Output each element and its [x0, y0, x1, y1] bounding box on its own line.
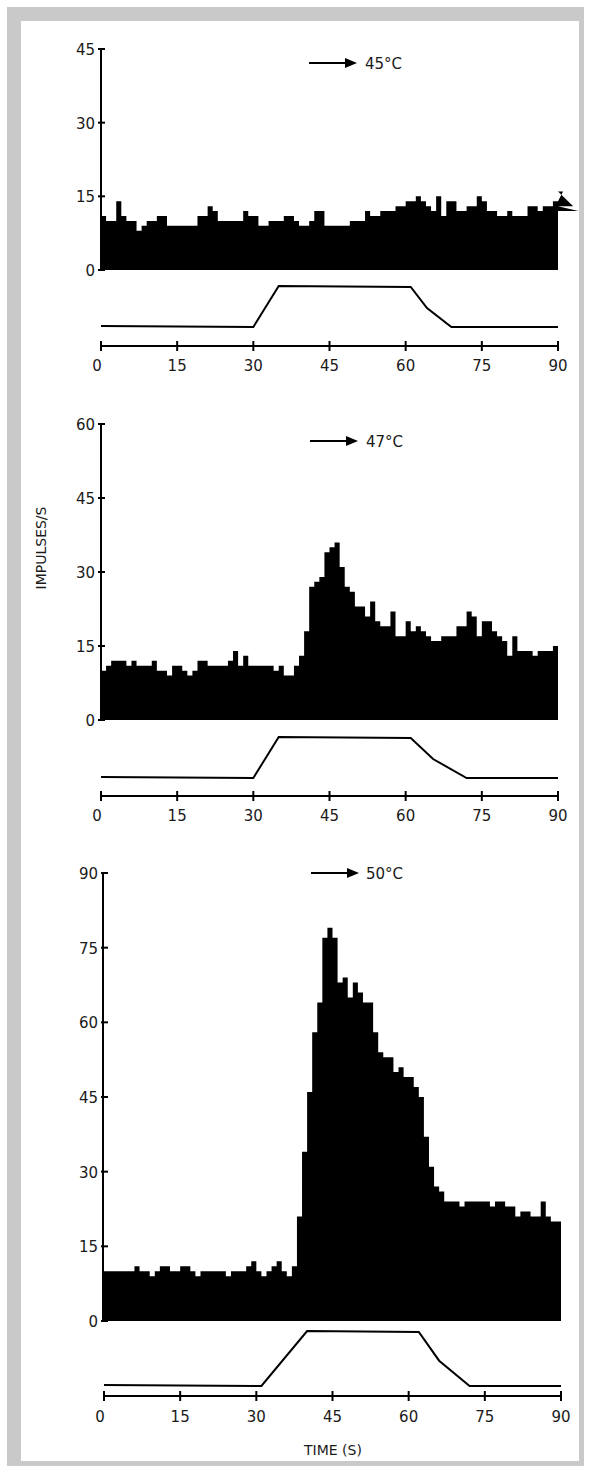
stimulus-label-50c: 50°C: [366, 865, 403, 883]
x-tick-label: 60: [396, 357, 415, 375]
panel-45c: 0153045 0153045607590 45°C: [76, 41, 578, 375]
y-tick-label: 75: [79, 940, 98, 958]
y-tick-label: 45: [79, 1089, 98, 1107]
x-tick-label: 0: [92, 357, 102, 375]
x-tick-label: 0: [92, 807, 102, 825]
stimulus-trace-45c: [101, 286, 558, 327]
histogram-bars-50c: [104, 928, 561, 1321]
panel-47c: 015304560 0153045607590 47°C IMPULSES/S: [33, 416, 568, 825]
x-tick-label: 30: [244, 807, 263, 825]
x-tick-label: 45: [320, 357, 339, 375]
x-tick-label: 60: [396, 807, 415, 825]
y-tick-label: 60: [79, 1014, 98, 1032]
histogram-bars-45c: [101, 191, 578, 270]
arrow-icon: [347, 868, 359, 878]
histogram-bars-47c: [101, 542, 558, 720]
y-tick-label: 0: [85, 262, 95, 280]
panel-50c: 0153045607590 0153045607590 50°C TIME (S…: [79, 865, 571, 1458]
y-tick-label: 15: [79, 1238, 98, 1256]
stimulus-label-47c: 47°C: [366, 433, 403, 451]
x-tick-label: 75: [475, 1408, 494, 1426]
x-axis-45c: 0153045607590: [92, 341, 567, 375]
y-tick-label: 30: [76, 115, 95, 133]
x-tick-label: 0: [95, 1408, 105, 1426]
x-tick-label: 90: [548, 807, 567, 825]
stimulus-trace-47c: [101, 737, 558, 778]
y-tick-label: 45: [76, 490, 95, 508]
x-tick-label: 90: [548, 357, 567, 375]
y-tick-label: 15: [76, 638, 95, 656]
y-tick-label: 90: [79, 865, 98, 883]
y-tick-label: 0: [85, 712, 95, 730]
x-tick-label: 75: [472, 357, 491, 375]
x-tick-label: 45: [320, 807, 339, 825]
x-tick-label: 15: [168, 357, 187, 375]
y-tick-label: 30: [79, 1164, 98, 1182]
y-axis-title: IMPULSES/S: [33, 506, 49, 589]
x-tick-label: 15: [171, 1408, 190, 1426]
x-tick-label: 75: [472, 807, 491, 825]
y-tick-label: 45: [76, 41, 95, 59]
y-tick-label: 60: [76, 416, 95, 434]
stimulus-trace-50c: [104, 1331, 561, 1386]
x-tick-label: 30: [244, 357, 263, 375]
histogram-figure: 0153045 0153045607590 45°C 015304560 015…: [0, 0, 591, 1473]
x-tick-label: 90: [551, 1408, 570, 1426]
x-axis-47c: 0153045607590: [92, 791, 567, 825]
y-tick-label: 30: [76, 564, 95, 582]
arrow-icon: [345, 58, 357, 68]
x-axis-50c: 0153045607590: [95, 1391, 570, 1426]
x-axis-title: TIME (S): [303, 1442, 362, 1458]
x-tick-label: 60: [399, 1408, 418, 1426]
x-tick-label: 45: [323, 1408, 342, 1426]
y-tick-label: 0: [88, 1313, 98, 1331]
stimulus-label-45c: 45°C: [365, 55, 402, 73]
arrow-icon: [346, 436, 358, 446]
x-tick-label: 30: [247, 1408, 266, 1426]
y-tick-label: 15: [76, 188, 95, 206]
x-tick-label: 15: [168, 807, 187, 825]
